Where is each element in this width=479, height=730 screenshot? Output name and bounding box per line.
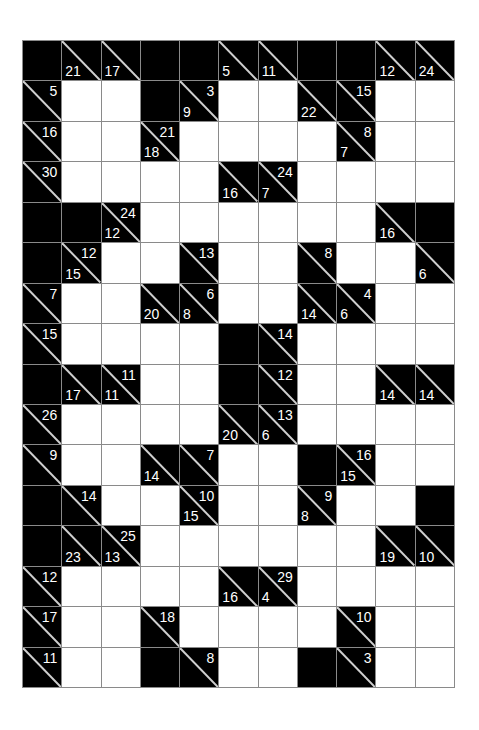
entry-cell[interactable] <box>62 162 100 201</box>
entry-cell[interactable] <box>102 486 140 525</box>
entry-cell[interactable] <box>62 81 100 120</box>
entry-cell[interactable] <box>416 607 454 646</box>
entry-cell[interactable] <box>298 567 336 606</box>
entry-cell[interactable] <box>376 243 414 282</box>
entry-cell[interactable] <box>337 162 375 201</box>
entry-cell[interactable] <box>376 648 414 687</box>
entry-cell[interactable] <box>62 445 100 484</box>
entry-cell[interactable] <box>102 162 140 201</box>
entry-cell[interactable] <box>259 445 297 484</box>
entry-cell[interactable] <box>376 405 414 444</box>
entry-cell[interactable] <box>259 284 297 323</box>
entry-cell[interactable] <box>337 526 375 565</box>
entry-cell[interactable] <box>141 365 179 404</box>
entry-cell[interactable] <box>416 405 454 444</box>
entry-cell[interactable] <box>219 486 257 525</box>
entry-cell[interactable] <box>259 243 297 282</box>
entry-cell[interactable] <box>298 203 336 242</box>
entry-cell[interactable] <box>376 284 414 323</box>
entry-cell[interactable] <box>337 405 375 444</box>
entry-cell[interactable] <box>416 81 454 120</box>
entry-cell[interactable] <box>298 607 336 646</box>
entry-cell[interactable] <box>337 324 375 363</box>
entry-cell[interactable] <box>219 203 257 242</box>
entry-cell[interactable] <box>62 567 100 606</box>
entry-cell[interactable] <box>376 162 414 201</box>
entry-cell[interactable] <box>376 122 414 161</box>
entry-cell[interactable] <box>298 365 336 404</box>
entry-cell[interactable] <box>259 526 297 565</box>
entry-cell[interactable] <box>102 648 140 687</box>
entry-cell[interactable] <box>219 243 257 282</box>
entry-cell[interactable] <box>102 445 140 484</box>
entry-cell[interactable] <box>376 486 414 525</box>
entry-cell[interactable] <box>219 284 257 323</box>
entry-cell[interactable] <box>102 567 140 606</box>
entry-cell[interactable] <box>141 567 179 606</box>
entry-cell[interactable] <box>141 486 179 525</box>
entry-cell[interactable] <box>141 203 179 242</box>
entry-cell[interactable] <box>259 648 297 687</box>
entry-cell[interactable] <box>62 405 100 444</box>
entry-cell[interactable] <box>180 122 218 161</box>
entry-cell[interactable] <box>180 405 218 444</box>
entry-cell[interactable] <box>376 324 414 363</box>
entry-cell[interactable] <box>259 486 297 525</box>
entry-cell[interactable] <box>298 526 336 565</box>
entry-cell[interactable] <box>259 81 297 120</box>
entry-cell[interactable] <box>298 162 336 201</box>
entry-cell[interactable] <box>141 243 179 282</box>
entry-cell[interactable] <box>259 607 297 646</box>
entry-cell[interactable] <box>259 203 297 242</box>
entry-cell[interactable] <box>62 122 100 161</box>
entry-cell[interactable] <box>416 162 454 201</box>
entry-cell[interactable] <box>102 405 140 444</box>
entry-cell[interactable] <box>62 607 100 646</box>
entry-cell[interactable] <box>219 648 257 687</box>
entry-cell[interactable] <box>62 284 100 323</box>
entry-cell[interactable] <box>337 203 375 242</box>
entry-cell[interactable] <box>180 203 218 242</box>
entry-cell[interactable] <box>102 284 140 323</box>
entry-cell[interactable] <box>416 648 454 687</box>
entry-cell[interactable] <box>298 324 336 363</box>
entry-cell[interactable] <box>219 526 257 565</box>
entry-cell[interactable] <box>141 405 179 444</box>
entry-cell[interactable] <box>298 122 336 161</box>
entry-cell[interactable] <box>219 445 257 484</box>
entry-cell[interactable] <box>376 445 414 484</box>
entry-cell[interactable] <box>337 567 375 606</box>
entry-cell[interactable] <box>416 324 454 363</box>
entry-cell[interactable] <box>180 324 218 363</box>
entry-cell[interactable] <box>102 243 140 282</box>
entry-cell[interactable] <box>298 405 336 444</box>
entry-cell[interactable] <box>337 365 375 404</box>
entry-cell[interactable] <box>416 445 454 484</box>
entry-cell[interactable] <box>180 607 218 646</box>
entry-cell[interactable] <box>219 122 257 161</box>
entry-cell[interactable] <box>219 607 257 646</box>
entry-cell[interactable] <box>376 567 414 606</box>
entry-cell[interactable] <box>416 567 454 606</box>
entry-cell[interactable] <box>337 486 375 525</box>
entry-cell[interactable] <box>180 526 218 565</box>
entry-cell[interactable] <box>219 81 257 120</box>
entry-cell[interactable] <box>259 122 297 161</box>
entry-cell[interactable] <box>62 648 100 687</box>
entry-cell[interactable] <box>416 122 454 161</box>
entry-cell[interactable] <box>416 284 454 323</box>
entry-cell[interactable] <box>141 324 179 363</box>
entry-cell[interactable] <box>180 162 218 201</box>
entry-cell[interactable] <box>102 607 140 646</box>
entry-cell[interactable] <box>141 526 179 565</box>
entry-cell[interactable] <box>180 567 218 606</box>
entry-cell[interactable] <box>62 324 100 363</box>
entry-cell[interactable] <box>141 162 179 201</box>
entry-cell[interactable] <box>337 243 375 282</box>
entry-cell[interactable] <box>102 122 140 161</box>
entry-cell[interactable] <box>102 81 140 120</box>
entry-cell[interactable] <box>180 365 218 404</box>
entry-cell[interactable] <box>376 81 414 120</box>
entry-cell[interactable] <box>102 324 140 363</box>
entry-cell[interactable] <box>376 607 414 646</box>
